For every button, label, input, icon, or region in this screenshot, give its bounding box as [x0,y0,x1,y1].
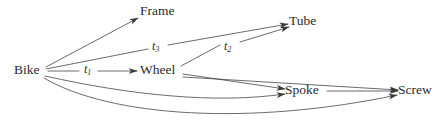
edge-bike-screw [44,78,397,114]
diagram-canvas: Bike Frame Wheel Tube Spoke Screw t1 t3 … [0,0,443,128]
edge-label-t1: t1 [84,62,91,77]
node-label-bike: Bike [14,62,40,77]
node-label-frame: Frame [140,3,175,18]
graph-svg: Bike Frame Wheel Tube Spoke Screw t1 t3 … [0,0,443,128]
node-label-wheel: Wheel [140,62,175,77]
edge-label-t1-sub: 1 [87,68,91,77]
node-label-screw: Screw [398,82,432,97]
node-label-spoke: Spoke [285,82,319,97]
edge-label-t3-sub: 3 [154,45,159,54]
edge-wheel-tube-segment-b [240,27,289,42]
edge-label-t2: t2 [224,39,231,54]
node-label-tube: Tube [289,13,316,28]
edge-bike-tube-segment-b [168,24,288,45]
edge-label-t3: t3 [152,39,159,54]
edge-wheel-tube-segment-a [181,45,220,66]
edge-wheel-spoke [183,74,285,89]
edge-label-t2-sub: 2 [227,45,231,54]
